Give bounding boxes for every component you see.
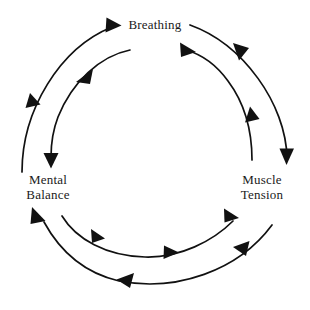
outer-arc-breathing-to-muscle-tension [190, 25, 294, 165]
node-label-muscle-tension-line-2: Tension [216, 187, 308, 202]
node-label-mental-balance-line-2: Balance [2, 187, 94, 202]
arrowhead-icon [44, 69, 94, 169]
arrowhead-icon [180, 43, 260, 123]
node-label-breathing-line-1: Breathing [0, 17, 310, 32]
node-label-muscle-tension: Muscle Tension [216, 172, 308, 202]
node-label-muscle-tension-line-1: Muscle [216, 172, 308, 187]
outer-arc-mental-balance-to-breathing [22, 18, 122, 173]
node-label-mental-balance: Mental Balance [2, 172, 94, 202]
cycle-diagram-canvas [0, 0, 310, 310]
inner-arc-mental-balance-to-muscle-tension [62, 209, 239, 260]
cycle-diagram: Breathing Mental Balance Muscle Tension [0, 0, 310, 310]
node-label-mental-balance-line-1: Mental [2, 172, 94, 187]
outer-arc-muscle-tension-to-mental-balance [31, 207, 273, 288]
inner-arc-breathing-to-mental-balance [44, 50, 131, 169]
node-label-breathing: Breathing [0, 17, 310, 32]
inner-arc-muscle-tension-to-breathing [180, 43, 260, 161]
